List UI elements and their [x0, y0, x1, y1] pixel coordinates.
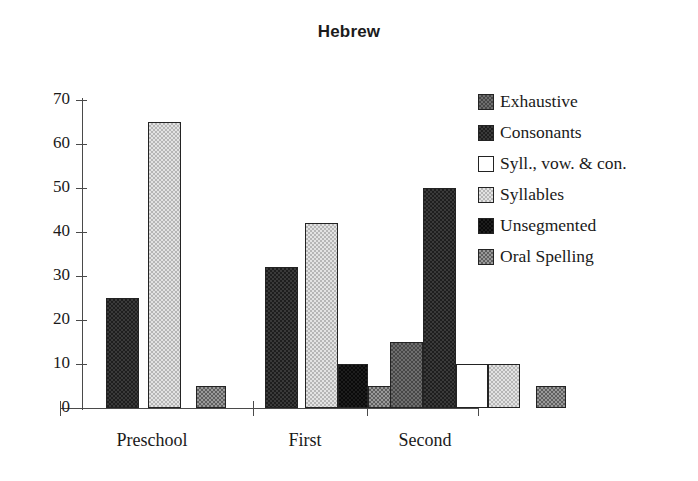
legend-item-label: Unsegmented — [500, 217, 596, 235]
legend-item-label: Syllables — [500, 186, 564, 204]
x-axis-group-label-preschool: Preschool — [82, 430, 222, 451]
legend-swatch-icon — [478, 94, 494, 110]
chart-title: Hebrew — [0, 22, 698, 42]
bar-preschool-oralspelling — [196, 386, 226, 408]
legend-item-consonants[interactable]: Consonants — [478, 117, 693, 148]
bar-second-syllvowcon — [456, 364, 488, 408]
legend-swatch-icon — [478, 125, 494, 141]
y-axis-tick — [76, 408, 87, 409]
x-axis-separator-tick — [60, 401, 61, 416]
bar-second-consonants — [423, 188, 456, 408]
y-axis-tick-label: 10 — [30, 353, 70, 373]
y-axis-tick-label: 20 — [30, 309, 70, 329]
legend-item-syllables[interactable]: Syllables — [478, 179, 693, 210]
chart-legend: ExhaustiveConsonantsSyll., vow. & con.Sy… — [478, 86, 693, 272]
y-axis-tick-label: 60 — [30, 133, 70, 153]
y-axis-tick-label: 50 — [30, 177, 70, 197]
bar-first-syllables — [305, 223, 338, 408]
bar-preschool-consonants — [106, 298, 139, 408]
bar-second-oralspelling — [536, 386, 566, 408]
y-axis-tick-label: 40 — [30, 221, 70, 241]
chart-container: Hebrew 010203040506070 PreschoolFirstSec… — [0, 0, 698, 481]
legend-item-label: Syll., vow. & con. — [500, 155, 627, 173]
legend-item-unsegmented[interactable]: Unsegmented — [478, 210, 693, 241]
legend-swatch-icon — [478, 187, 494, 203]
x-axis-group-label-second: Second — [355, 430, 495, 451]
legend-item-label: Consonants — [500, 124, 582, 142]
y-axis-tick-label: 30 — [30, 265, 70, 285]
x-axis-line — [60, 408, 478, 409]
x-axis-group-label-first: First — [235, 430, 375, 451]
bar-first-unsegmented — [338, 364, 368, 408]
plot-area — [82, 100, 472, 408]
legend-item-label: Oral Spelling — [500, 248, 594, 266]
legend-item-exhaustive[interactable]: Exhaustive — [478, 86, 693, 117]
bar-second-syllables — [488, 364, 520, 408]
bar-first-consonants — [265, 267, 298, 408]
legend-item-syll-vow-con[interactable]: Syll., vow. & con. — [478, 148, 693, 179]
legend-item-oral-spelling[interactable]: Oral Spelling — [478, 241, 693, 272]
legend-swatch-icon — [478, 218, 494, 234]
bar-second-exhaustive — [390, 342, 423, 408]
bar-preschool-syllables — [148, 122, 181, 408]
y-axis-tick-label: 0 — [30, 397, 70, 417]
legend-swatch-icon — [478, 156, 494, 172]
legend-swatch-icon — [478, 249, 494, 265]
legend-item-label: Exhaustive — [500, 93, 578, 111]
y-axis-tick-label: 70 — [30, 89, 70, 109]
